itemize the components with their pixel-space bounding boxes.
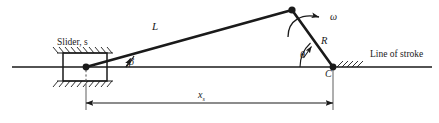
diagram-canvas: [0, 0, 439, 123]
slider-crank-diagram: Slider, s L β ω R θ C Line of stroke xs: [0, 0, 439, 123]
slider-label: Slider, s: [57, 38, 88, 48]
slider-pivot-joint: [83, 64, 90, 71]
crank-radius-label: R: [321, 36, 327, 47]
beta-angle-label: β: [129, 57, 134, 67]
connecting-rod-label: L: [152, 21, 158, 32]
crank-center-label: C: [325, 69, 332, 79]
dimension-xs-label: xs: [198, 90, 205, 102]
line-of-stroke-label: Line of stroke: [370, 50, 423, 60]
dimension-xs: [86, 70, 333, 110]
slider-lower-hatching: [53, 81, 112, 87]
dimension-xs-subscript: s: [202, 95, 204, 102]
slider-upper-hatching: [53, 47, 112, 53]
theta-angle-label: θ: [300, 50, 305, 60]
omega-label: ω: [330, 12, 337, 22]
crank-center-ground-hatching: [337, 61, 363, 67]
crank-pin-joint: [288, 6, 295, 13]
connecting-rod-link: [86, 10, 292, 67]
